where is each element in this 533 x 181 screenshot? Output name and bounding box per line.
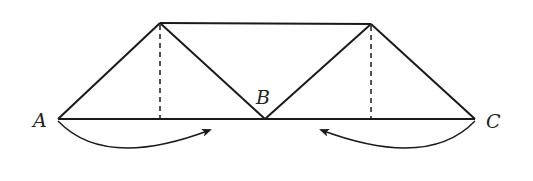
truss-diagram: A B C: [0, 0, 533, 181]
left-rotation-arrow: [58, 121, 210, 148]
edge-top-right-c: [371, 24, 475, 119]
edge-a-top-left: [58, 23, 160, 119]
right-rotation-arrow: [321, 121, 475, 148]
top-line: [160, 23, 371, 24]
label-a: A: [31, 109, 47, 131]
diagram-canvas: A B C: [0, 0, 533, 181]
edge-top-left-b: [160, 23, 265, 119]
edge-b-top-right: [265, 24, 371, 119]
label-b: B: [255, 86, 270, 108]
label-c: C: [486, 110, 501, 132]
